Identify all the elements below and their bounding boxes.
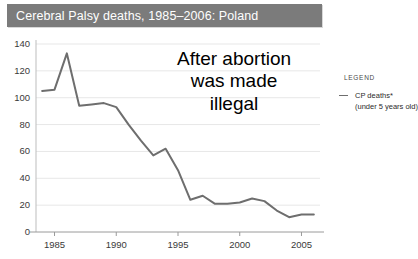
- annotation-line-2: was made: [146, 70, 322, 92]
- x-tick-label: 2005: [281, 240, 321, 250]
- chart-title-bar: Cerebral Palsy deaths, 1985–2006: Poland: [7, 4, 322, 27]
- annotation-line-3: illegal: [146, 93, 322, 115]
- y-tick-label: 100: [0, 93, 30, 103]
- y-tick-label: 80: [0, 120, 30, 130]
- y-tick-label: 40: [0, 173, 30, 183]
- chart-legend: LEGEND CP deaths* (under 5 years old): [344, 74, 418, 113]
- y-tick-label: 20: [0, 200, 30, 210]
- legend-item-sublabel: (under 5 years old): [355, 102, 418, 113]
- y-tick-label: 120: [0, 66, 30, 76]
- chart-container: 020406080100120140 19851990199520002005 …: [0, 30, 418, 259]
- page-title: Cerebral Palsy deaths, 1985–2006: Poland: [16, 9, 258, 23]
- annotation-line-1: After abortion: [146, 48, 322, 70]
- x-tick-label: 1995: [158, 240, 198, 250]
- plot-annotation: After abortion was made illegal: [146, 48, 322, 115]
- legend-line-swatch-icon: [339, 95, 348, 96]
- legend-item-label: CP deaths*: [355, 91, 418, 102]
- y-tick-label: 60: [0, 146, 30, 156]
- legend-item-cp-deaths: CP deaths* (under 5 years old): [344, 91, 418, 113]
- x-tick-marks: [55, 232, 302, 236]
- y-tick-label: 140: [0, 39, 30, 49]
- legend-heading: LEGEND: [344, 74, 418, 81]
- x-tick-label: 2000: [220, 240, 260, 250]
- x-tick-label: 1985: [35, 240, 75, 250]
- y-tick-label: 0: [0, 227, 30, 237]
- x-tick-label: 1990: [96, 240, 136, 250]
